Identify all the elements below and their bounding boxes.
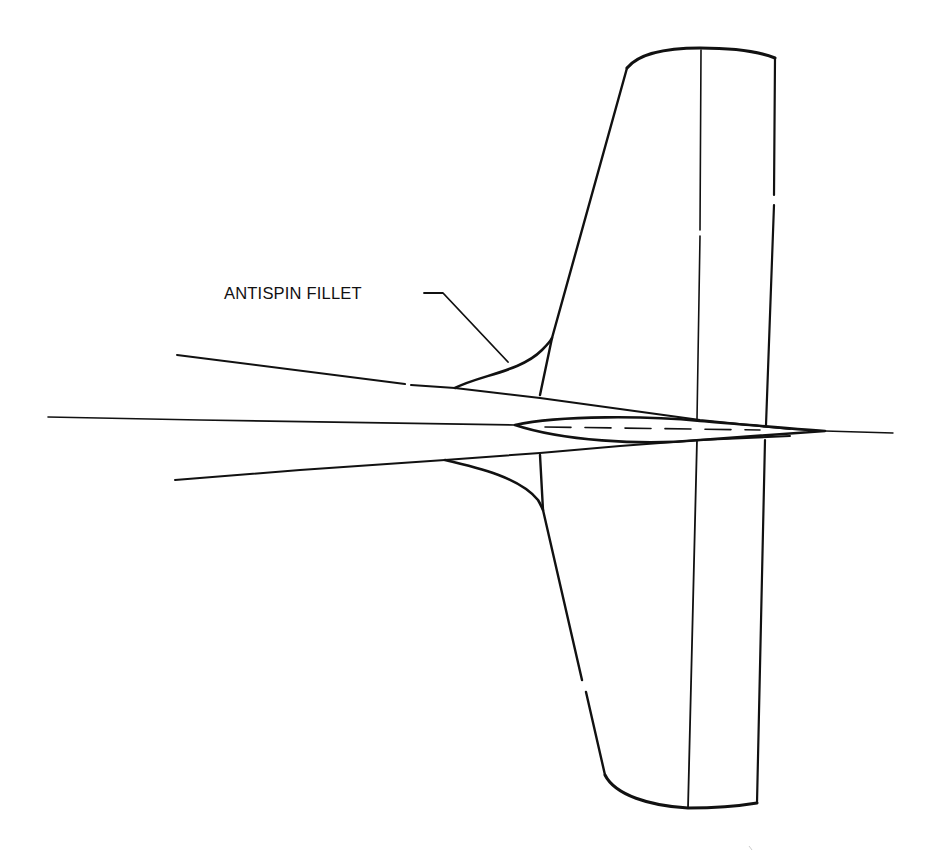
upper-stabilizer (455, 48, 775, 425)
lower-stabilizer (445, 440, 765, 808)
antispin-fillet-label: ANTISPIN FILLET (224, 284, 362, 303)
scan-artifact (749, 846, 752, 850)
tail-cone-section (515, 417, 825, 442)
upper-antispin-fillet (455, 338, 552, 388)
tail-drawing (0, 0, 937, 858)
lower-antispin-fillet (445, 460, 543, 510)
annotation-leader-line (424, 293, 508, 362)
tail-diagram: ANTISPIN FILLET (0, 0, 937, 858)
